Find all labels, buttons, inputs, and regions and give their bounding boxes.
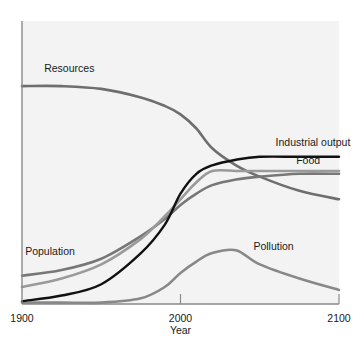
x-tick-label-1900: 1900 — [10, 312, 34, 324]
x-axis-title: Year — [170, 324, 192, 336]
label-pollution: Pollution — [253, 240, 293, 252]
label-population: Population — [25, 245, 75, 257]
x-tick-label-2000: 2000 — [169, 312, 193, 324]
label-food: Food — [296, 154, 320, 166]
x-tick-label-2100: 2100 — [327, 312, 351, 324]
label-resources: Resources — [44, 62, 94, 74]
label-industrial-output: Industrial output — [276, 136, 351, 148]
chart: ResourcesIndustrial outputFoodPopulation… — [0, 0, 364, 342]
